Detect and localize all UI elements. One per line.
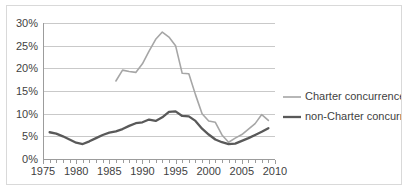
legend-item[interactable]: non-Charter concurrences: [283, 110, 401, 122]
x-axis-tick-label: 2005: [230, 165, 254, 177]
y-axis-tick-label: 0%: [22, 153, 38, 165]
y-axis-tick-labels: 30%25%20%15%10%5%0%: [16, 17, 38, 165]
chart-container: 30%25%20%15%10%5%0% 19751980198519901995…: [6, 5, 402, 185]
y-axis-tick-label: 25%: [16, 40, 38, 52]
x-axis-tick-label: 1995: [163, 165, 187, 177]
x-axis-tick-label: 1980: [64, 165, 88, 177]
x-axis-tick-label: 2000: [196, 165, 220, 177]
series-line: [116, 32, 268, 142]
y-axis-tick-label: 20%: [16, 62, 38, 74]
x-axis-tick-labels: 19751980198519901995200020052010: [31, 165, 287, 177]
x-axis-tick-label: 2010: [263, 165, 287, 177]
legend-label: non-Charter concurrences: [305, 110, 401, 122]
data-series-group: [50, 32, 269, 144]
y-axis-tick-label: 15%: [16, 85, 38, 97]
legend-item[interactable]: Charter concurrences: [283, 90, 401, 102]
y-axis-tick-label: 30%: [16, 17, 38, 29]
line-chart: 30%25%20%15%10%5%0% 19751980198519901995…: [7, 6, 401, 184]
legend-label: Charter concurrences: [305, 90, 401, 102]
x-axis-tick-label: 1975: [31, 165, 55, 177]
x-axis-tick-label: 1985: [97, 165, 121, 177]
y-axis-tick-label: 5%: [22, 130, 38, 142]
y-axis-tick-label: 10%: [16, 108, 38, 120]
chart-legend: Charter concurrencesnon-Charter concurre…: [283, 90, 401, 122]
series-line: [50, 111, 269, 144]
x-axis-tick-label: 1990: [130, 165, 154, 177]
